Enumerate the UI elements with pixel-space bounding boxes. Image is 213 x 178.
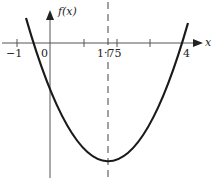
symmetry-label: 1·75	[97, 48, 122, 59]
origin-label: 0	[41, 48, 48, 59]
root-label-4: 4	[183, 48, 190, 59]
y-axis-label: f(x)	[58, 6, 77, 17]
graph-canvas	[0, 0, 213, 178]
x-axis-label: x	[205, 37, 211, 48]
y-axis-arrow-icon	[46, 10, 54, 20]
x-axis-arrow-icon	[193, 39, 203, 47]
tick-label-neg1: −1	[6, 48, 22, 59]
